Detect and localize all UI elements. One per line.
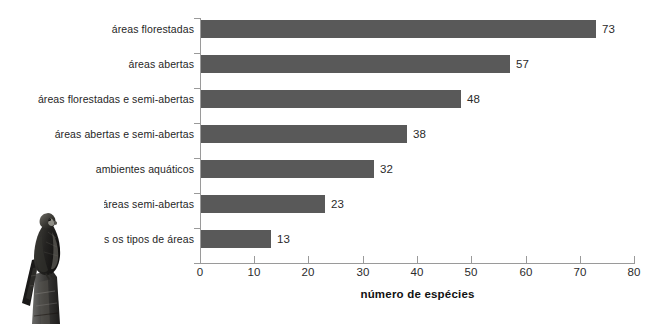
bar-value-label: 13 (277, 233, 290, 245)
bar[interactable] (201, 20, 596, 38)
category-label: áreas abertas (128, 58, 194, 70)
bar-value-label: 32 (380, 163, 393, 175)
bar[interactable] (201, 230, 271, 248)
category-label: áreas semi-abertas (102, 198, 194, 210)
x-axis-tick-label: 10 (234, 266, 274, 278)
x-axis-tick (634, 256, 635, 263)
x-axis-tick-label: 20 (288, 266, 328, 278)
x-axis-tick (580, 256, 581, 263)
x-axis-line (200, 263, 635, 264)
x-axis-tick-label: 80 (614, 266, 654, 278)
x-axis-tick (363, 256, 364, 263)
bar-value-label: 48 (467, 93, 480, 105)
x-axis-tick (417, 256, 418, 263)
x-axis-tick-label: 60 (506, 266, 546, 278)
category-label: áreas abertas e semi-abertas (55, 128, 194, 140)
bar-row: áreas florestadas e semi-abertas 48 (0, 81, 668, 116)
x-axis-tick (526, 256, 527, 263)
bar-row: ambientes aquáticos 32 (0, 151, 668, 186)
bar-value-label: 23 (331, 198, 344, 210)
falcon-perched-photo (8, 198, 104, 324)
chart-page: áreas florestadas 73 áreas abertas 57 ár… (0, 0, 668, 324)
x-axis-tick-label: 30 (343, 266, 383, 278)
bar-row: áreas abertas 57 (0, 46, 668, 81)
y-axis-tick (194, 263, 200, 264)
bar[interactable] (201, 195, 325, 213)
x-axis-tick-label: 70 (560, 266, 600, 278)
x-axis-tick-label: 0 (180, 266, 220, 278)
bar-value-label: 73 (602, 23, 615, 35)
category-label: áreas florestadas (112, 23, 194, 35)
x-axis-title: número de espécies (200, 288, 635, 300)
x-axis-tick-label: 50 (451, 266, 491, 278)
category-label: áreas florestadas e semi-abertas (38, 93, 194, 105)
x-axis-tick (308, 256, 309, 263)
x-axis-tick (254, 256, 255, 263)
bar-row: áreas florestadas 73 (0, 11, 668, 46)
x-axis-tick (200, 256, 201, 263)
bar[interactable] (201, 125, 407, 143)
bar[interactable] (201, 55, 510, 73)
bar-row: áreas abertas e semi-abertas 38 (0, 116, 668, 151)
bar[interactable] (201, 160, 374, 178)
x-axis-tick (471, 256, 472, 263)
category-label: ambientes aquáticos (96, 163, 194, 175)
bar-value-label: 57 (516, 58, 529, 70)
bar-value-label: 38 (413, 128, 426, 140)
x-axis-tick-label: 40 (397, 266, 437, 278)
bar[interactable] (201, 90, 461, 108)
